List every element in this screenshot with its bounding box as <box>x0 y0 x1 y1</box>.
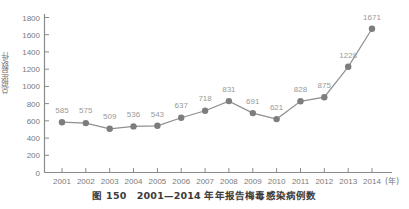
data-label-2006: 637 <box>175 101 189 110</box>
data-label-2001: 585 <box>55 106 69 115</box>
x-tick-label-2012: 2012 <box>315 177 333 186</box>
x-tick-label-2014: 2014 <box>363 177 381 186</box>
x-tick-label-2007: 2007 <box>196 177 214 186</box>
data-point-2012 <box>321 94 327 100</box>
data-point-2006 <box>178 115 184 121</box>
x-tick-label-2006: 2006 <box>172 177 190 186</box>
x-tick-label-2008: 2008 <box>220 177 238 186</box>
x-tick-label-2004: 2004 <box>125 177 143 186</box>
x-tick-label-2009: 2009 <box>244 177 262 186</box>
y-tick-label-1600: 1600 <box>22 31 40 40</box>
data-point-2010 <box>273 116 279 122</box>
y-tick-label-600: 600 <box>27 117 41 126</box>
y-tick-label-0: 0 <box>36 169 41 178</box>
data-label-2011: 828 <box>294 85 308 94</box>
x-tick-label-2010: 2010 <box>268 177 286 186</box>
y-axis-ticks <box>45 18 50 173</box>
data-point-2005 <box>154 123 160 129</box>
data-point-2002 <box>83 120 89 126</box>
data-point-2003 <box>107 126 113 132</box>
y-tick-label-400: 400 <box>27 134 41 143</box>
y-tick-label-1400: 1400 <box>22 48 40 57</box>
data-point-2008 <box>226 98 232 104</box>
data-label-2014: 1671 <box>363 13 381 22</box>
y-tick-label-200: 200 <box>27 151 41 160</box>
x-tick-label-2002: 2002 <box>77 177 95 186</box>
x-tick-label-2013: 2013 <box>339 177 357 186</box>
data-label-2003: 509 <box>103 112 117 121</box>
data-label-2002: 575 <box>79 106 93 115</box>
data-point-2013 <box>345 64 351 70</box>
data-label-2008: 831 <box>222 85 236 94</box>
y-tick-label-1000: 1000 <box>22 82 40 91</box>
data-point-2001 <box>59 119 65 125</box>
x-axis-ticks <box>62 168 372 173</box>
data-label-2013: 1228 <box>339 51 357 60</box>
data-point-2009 <box>250 110 256 116</box>
data-point-2011 <box>297 98 303 104</box>
data-label-2005: 543 <box>151 110 165 119</box>
x-tick-label-2003: 2003 <box>101 177 119 186</box>
y-tick-label-1800: 1800 <box>22 14 40 23</box>
x-tick-label-2005: 2005 <box>149 177 167 186</box>
line-chart-plot: 0 200 400 600 800 1000 1200 1400 1600 18… <box>0 0 409 209</box>
data-label-2012: 875 <box>318 81 332 90</box>
data-label-2004: 536 <box>127 110 141 119</box>
data-point-2004 <box>130 123 136 129</box>
y-tick-label-800: 800 <box>27 100 41 109</box>
x-axis-unit-label: (年) <box>385 176 399 186</box>
x-tick-label-2001: 2001 <box>53 177 71 186</box>
data-point-2007 <box>202 108 208 114</box>
data-label-2010: 621 <box>270 103 284 112</box>
figure-container: 总报告数/件 0 200 400 600 800 1000 1200 1400 … <box>0 0 409 209</box>
data-label-2009: 691 <box>246 97 260 106</box>
data-point-2014 <box>369 26 375 32</box>
data-label-2007: 718 <box>198 94 212 103</box>
figure-caption: 图 150 2001—2014 年年报告梅毒感染病例数 <box>0 188 409 202</box>
x-tick-label-2011: 2011 <box>292 177 310 186</box>
y-tick-label-1200: 1200 <box>22 65 40 74</box>
